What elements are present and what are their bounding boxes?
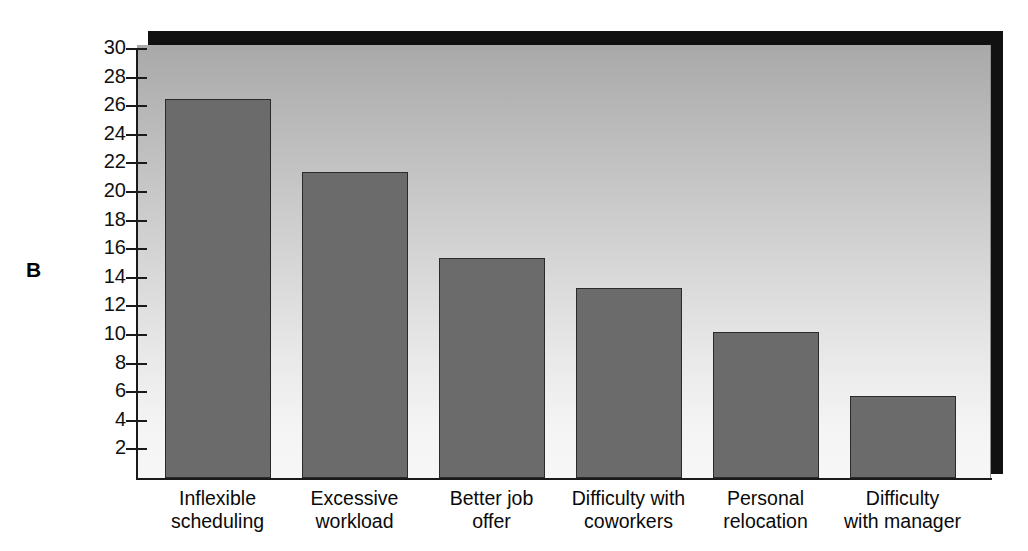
y-tick-label: 22: [66, 150, 126, 172]
y-tick-mark: [126, 191, 147, 193]
y-tick-label: 8: [66, 351, 126, 373]
y-tick-mark: [126, 134, 147, 136]
category-label-6: Difficulty with manager: [824, 487, 981, 533]
y-tick-mark: [126, 391, 147, 393]
y-tick-label: 26: [66, 93, 126, 115]
bar-5: [713, 332, 819, 478]
y-tick-mark: [126, 248, 147, 250]
y-tick-label: 20: [66, 179, 126, 201]
category-label-1: Inflexible scheduling: [139, 487, 296, 533]
bar-chart-figure: B 30282624222018161412108642 Inflexible …: [0, 0, 1028, 551]
y-tick-label: 30: [66, 36, 126, 58]
category-label-2: Excessive workload: [276, 487, 433, 533]
y-tick-mark: [126, 420, 147, 422]
y-tick-label: 28: [66, 65, 126, 87]
y-tick-mark: [126, 77, 147, 79]
bar-2: [302, 172, 408, 478]
y-tick-label: 14: [66, 265, 126, 287]
y-tick-label: 4: [66, 408, 126, 430]
y-tick-mark: [126, 277, 147, 279]
y-tick-mark: [126, 48, 147, 50]
y-tick-mark: [126, 448, 147, 450]
y-tick-mark: [126, 305, 147, 307]
category-label-3: Better job offer: [413, 487, 570, 533]
bar-3: [439, 258, 545, 478]
y-tick-label: 12: [66, 293, 126, 315]
y-tick-mark: [126, 220, 147, 222]
y-tick-label: 24: [66, 122, 126, 144]
y-tick-label: 6: [66, 379, 126, 401]
category-label-4: Difficulty with coworkers: [550, 487, 707, 533]
bar-4: [576, 288, 682, 478]
y-tick-mark: [126, 105, 147, 107]
y-tick-label: 18: [66, 208, 126, 230]
y-tick-mark: [126, 162, 147, 164]
category-label-5: Personal relocation: [687, 487, 844, 533]
y-tick-mark: [126, 334, 147, 336]
bar-1: [165, 99, 271, 478]
y-tick-label: 16: [66, 236, 126, 258]
y-tick-mark: [126, 363, 147, 365]
y-tick-label: 2: [66, 436, 126, 458]
y-axis-line: [136, 50, 138, 479]
x-axis-line: [136, 478, 992, 480]
bar-6: [850, 396, 956, 478]
panel-label-b: B: [26, 258, 42, 282]
y-tick-label: 10: [66, 322, 126, 344]
